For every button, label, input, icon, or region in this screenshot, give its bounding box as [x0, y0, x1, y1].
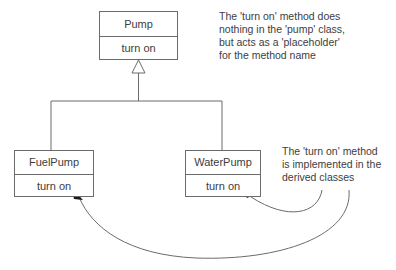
callout-path-fuelpump: [79, 190, 349, 258]
class-name-waterpump: WaterPump: [186, 151, 260, 174]
callout-curve-fuelpump: [71, 187, 349, 258]
annotation-derived-classes: The 'turn on' method is implemented in t…: [282, 145, 396, 184]
class-name-pump: Pump: [100, 12, 177, 36]
class-method-fuelpump: turn on: [15, 174, 93, 197]
generalization-triangle-icon: [132, 60, 145, 73]
class-method-pump: turn on: [100, 36, 177, 60]
class-method-waterpump: turn on: [186, 174, 260, 197]
class-name-fuelpump: FuelPump: [15, 151, 93, 174]
class-box-waterpump[interactable]: WaterPump turn on: [185, 150, 261, 197]
class-box-pump[interactable]: Pump turn on: [99, 11, 178, 60]
annotation-base-class: The 'turn on' method does nothing in the…: [219, 10, 391, 62]
uml-class-diagram: Pump turn on FuelPump turn on WaterPump …: [0, 0, 396, 270]
class-box-fuelpump[interactable]: FuelPump turn on: [14, 150, 94, 197]
callout-path-waterpump: [251, 190, 322, 212]
generalization-connector: [51, 60, 222, 150]
